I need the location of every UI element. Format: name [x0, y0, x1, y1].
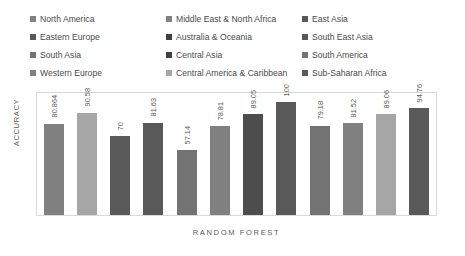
bar: 89.05 — [243, 114, 263, 215]
bar-value-label: 100 — [283, 84, 290, 96]
legend-swatch-icon — [166, 16, 172, 22]
bar-slot: 94.76 — [403, 93, 436, 215]
legend-item-label: Central America & Caribbean — [176, 69, 287, 78]
legend-item-label: South America — [312, 51, 368, 60]
legend-item-label: Australia & Oceania — [176, 33, 252, 42]
legend-item-label: Western Europe — [40, 69, 102, 78]
bar-slot: 80.864 — [37, 93, 70, 215]
legend-swatch-icon — [30, 52, 36, 58]
legend-item-label: Central Asia — [176, 51, 222, 60]
legend-swatch-icon — [30, 34, 36, 40]
bar-value-label: 80.864 — [50, 95, 57, 118]
bar: 79.18 — [310, 126, 330, 215]
bar: 90.58 — [77, 113, 97, 215]
legend-item-sub-saharan-africa: Sub-Saharan Africa — [302, 69, 387, 78]
bar-value-label: 70 — [117, 122, 124, 130]
legend-item-label: East Asia — [312, 15, 348, 24]
legend-item-label: Sub-Saharan Africa — [312, 69, 387, 78]
legend-row: North America Middle East & North Africa… — [30, 10, 422, 28]
bar: 94.76 — [409, 108, 429, 215]
bar: 57.14 — [177, 150, 197, 215]
legend-item-south-east-asia: South East Asia — [302, 33, 373, 42]
bar-slot: 90.58 — [70, 93, 103, 215]
legend-item-south-america: South America — [302, 51, 368, 60]
legend-item-east-asia: East Asia — [302, 15, 348, 24]
legend-swatch-icon — [166, 34, 172, 40]
chart-legend: North America Middle East & North Africa… — [30, 10, 422, 82]
bar-slot: 100 — [270, 93, 303, 215]
bar-value-label: 94.76 — [416, 83, 423, 102]
bar-value-label: 90.58 — [83, 88, 90, 107]
legend-item-north-america: North America — [30, 15, 166, 24]
legend-swatch-icon — [30, 16, 36, 22]
bar-value-label: 89.06 — [383, 90, 390, 109]
bar-slot: 70 — [104, 93, 137, 215]
legend-row: Eastern Europe Australia & Oceania South… — [30, 28, 422, 46]
bar: 78.81 — [210, 126, 230, 215]
bar-value-label: 79.18 — [316, 101, 323, 120]
bar: 81.52 — [343, 123, 363, 215]
legend-item-label: North America — [40, 15, 94, 24]
legend-item-south-asia: South Asia — [30, 51, 166, 60]
bar-slot: 79.18 — [303, 93, 336, 215]
bar-value-label: 78.81 — [216, 101, 223, 120]
legend-row: Western Europe Central America & Caribbe… — [30, 64, 422, 82]
bar-slot: 81.52 — [336, 93, 369, 215]
legend-swatch-icon — [302, 34, 308, 40]
bar-slot: 57.14 — [170, 93, 203, 215]
legend-item-label: Middle East & North Africa — [176, 15, 276, 24]
legend-item-middle-east-north-africa: Middle East & North Africa — [166, 15, 302, 24]
y-axis-label: ACCURACY — [12, 83, 21, 163]
bar-value-label: 89.05 — [250, 90, 257, 109]
legend-item-central-asia: Central Asia — [166, 51, 302, 60]
bar: 70 — [110, 136, 130, 215]
legend-swatch-icon — [166, 52, 172, 58]
legend-item-australia-oceania: Australia & Oceania — [166, 33, 302, 42]
legend-item-eastern-europe: Eastern Europe — [30, 33, 166, 42]
bar: 89.06 — [376, 114, 396, 215]
legend-item-label: Eastern Europe — [40, 33, 100, 42]
bar-slot: 81.63 — [137, 93, 170, 215]
bar-slot: 78.81 — [203, 93, 236, 215]
bar: 81.63 — [143, 123, 163, 215]
x-axis-label: RANDOM FOREST — [36, 228, 437, 237]
bar: 80.864 — [44, 124, 64, 215]
bar-value-label: 81.52 — [349, 98, 356, 117]
legend-row: South Asia Central Asia South America — [30, 46, 422, 64]
bar-series: 80.86490.587081.6357.1478.8189.0510079.1… — [37, 93, 436, 215]
legend-swatch-icon — [166, 70, 172, 76]
bar: 100 — [276, 102, 296, 215]
legend-swatch-icon — [302, 52, 308, 58]
legend-item-western-europe: Western Europe — [30, 69, 166, 78]
bar-value-label: 81.63 — [150, 98, 157, 117]
bar-value-label: 57.14 — [183, 126, 190, 145]
bar-slot: 89.06 — [370, 93, 403, 215]
bar-slot: 89.05 — [237, 93, 270, 215]
legend-item-central-america-caribbean: Central America & Caribbean — [166, 69, 302, 78]
legend-item-label: South East Asia — [312, 33, 373, 42]
legend-item-label: South Asia — [40, 51, 81, 60]
legend-swatch-icon — [302, 70, 308, 76]
legend-swatch-icon — [30, 70, 36, 76]
legend-swatch-icon — [302, 16, 308, 22]
